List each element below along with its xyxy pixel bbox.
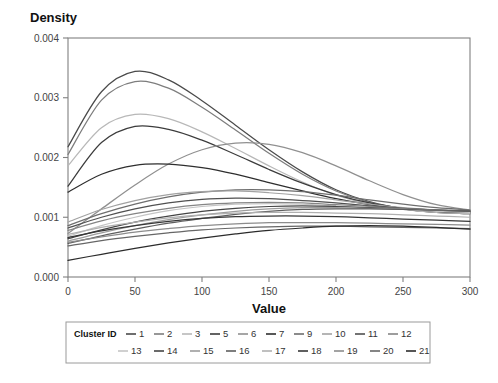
legend-label-15[interactable]: 15 bbox=[203, 345, 214, 356]
y-tick-label: 0.003 bbox=[34, 92, 59, 103]
legend-label-5[interactable]: 5 bbox=[223, 328, 228, 339]
legend-label-12[interactable]: 12 bbox=[401, 328, 412, 339]
x-tick-label: 50 bbox=[129, 286, 141, 297]
y-tick-label: 0.002 bbox=[34, 152, 59, 163]
x-axis-ticks: 050100150200250300 bbox=[65, 277, 479, 297]
legend-label-1[interactable]: 1 bbox=[139, 328, 144, 339]
x-tick-label: 300 bbox=[462, 286, 479, 297]
y-tick-label: 0.004 bbox=[34, 33, 59, 44]
x-tick-label: 150 bbox=[261, 286, 278, 297]
density-curve-20 bbox=[68, 226, 470, 246]
legend-label-18[interactable]: 18 bbox=[311, 345, 322, 356]
chart-canvas: Density 0.0000.0010.0020.0030.004 050100… bbox=[0, 0, 498, 383]
y-axis-title: Density bbox=[30, 10, 78, 25]
legend-label-7[interactable]: 7 bbox=[279, 328, 284, 339]
density-curve-5 bbox=[68, 126, 470, 213]
x-tick-label: 100 bbox=[194, 286, 211, 297]
density-chart: Density 0.0000.0010.0020.0030.004 050100… bbox=[0, 0, 498, 383]
x-tick-label: 250 bbox=[395, 286, 412, 297]
y-tick-label: 0.001 bbox=[34, 212, 59, 223]
legend-label-6[interactable]: 6 bbox=[251, 328, 256, 339]
legend-label-20[interactable]: 20 bbox=[383, 345, 394, 356]
x-axis-title: Value bbox=[252, 301, 286, 316]
legend-label-2[interactable]: 2 bbox=[167, 328, 172, 339]
legend-label-16[interactable]: 16 bbox=[239, 345, 250, 356]
chart-legend: Cluster ID 12356791011121314151617181920… bbox=[66, 322, 430, 363]
y-tick-label: 0.000 bbox=[34, 272, 59, 283]
x-tick-label: 0 bbox=[65, 286, 71, 297]
plot-frame bbox=[68, 38, 470, 277]
legend-label-11[interactable]: 11 bbox=[368, 328, 378, 339]
legend-title: Cluster ID bbox=[74, 329, 117, 339]
legend-label-13[interactable]: 13 bbox=[131, 345, 142, 356]
legend-label-10[interactable]: 10 bbox=[335, 328, 346, 339]
legend-label-3[interactable]: 3 bbox=[195, 328, 200, 339]
legend-label-9[interactable]: 9 bbox=[307, 328, 312, 339]
x-tick-label: 200 bbox=[328, 286, 345, 297]
legend-label-19[interactable]: 19 bbox=[347, 345, 358, 356]
y-axis-ticks: 0.0000.0010.0020.0030.004 bbox=[34, 33, 68, 283]
density-curve-19 bbox=[68, 223, 470, 243]
legend-label-14[interactable]: 14 bbox=[167, 345, 178, 356]
density-curve-9 bbox=[68, 190, 470, 226]
density-curves bbox=[68, 71, 470, 260]
legend-label-21[interactable]: 21 bbox=[419, 345, 430, 356]
density-curve-2 bbox=[68, 81, 470, 214]
legend-label-17[interactable]: 17 bbox=[275, 345, 286, 356]
